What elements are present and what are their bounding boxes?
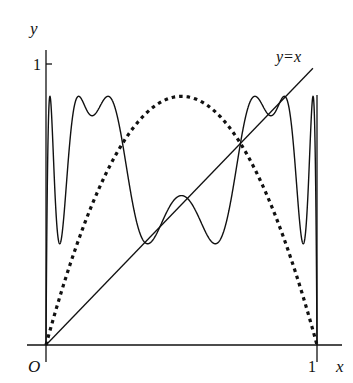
y-axis-label: y bbox=[28, 19, 38, 38]
x-tick-label-1: 1 bbox=[308, 358, 316, 375]
x-axis-label: x bbox=[335, 357, 344, 376]
identity-line-label: y=x bbox=[274, 48, 301, 66]
y-tick-label-1: 1 bbox=[33, 56, 41, 73]
logistic-map-curve bbox=[46, 96, 317, 345]
chart-canvas: y 1 O 1 x y=x bbox=[0, 0, 353, 383]
origin-label: O bbox=[28, 357, 40, 376]
